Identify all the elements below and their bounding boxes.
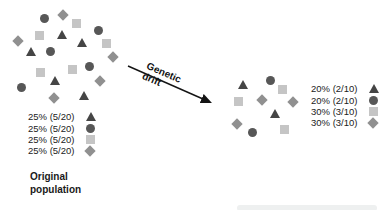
circle-marker: [369, 96, 378, 105]
square-marker: [369, 107, 378, 116]
drifted-population-legend: 20% (2/10)20% (2/10)30% (3/10)30% (3/10): [311, 83, 379, 129]
original-population-label-line1: Original: [30, 170, 81, 183]
legend-label: 30% (3/10): [311, 117, 369, 128]
legend-label: 25% (5/20): [28, 123, 86, 134]
triangle-marker: [369, 84, 379, 93]
legend-row: 30% (3/10): [311, 106, 379, 117]
cropped-ui-artifact: [237, 205, 377, 210]
legend-label: 20% (2/10): [311, 83, 369, 94]
diamond-marker: [367, 117, 378, 128]
legend-row: 25% (5/20): [28, 111, 96, 122]
legend-row: 30% (3/10): [311, 117, 379, 128]
original-population-label-line2: population: [30, 183, 81, 196]
legend-label: 25% (5/20): [28, 134, 86, 145]
original-population-label: Original population: [30, 170, 81, 196]
legend-label: 30% (3/10): [311, 106, 369, 117]
legend-row: 25% (5/20): [28, 134, 96, 145]
legend-row: 20% (2/10): [311, 83, 379, 94]
triangle-marker: [86, 112, 96, 121]
legend-label: 25% (5/20): [28, 145, 86, 156]
square-marker: [86, 135, 95, 144]
original-population-legend: 25% (5/20)25% (5/20)25% (5/20)25% (5/20): [28, 111, 96, 157]
circle-marker: [86, 124, 95, 133]
legend-row: 25% (5/20): [28, 145, 96, 156]
genetic-drift-diagram: Genetic drift 25% (5/20)25% (5/20)25% (5…: [0, 0, 388, 210]
diamond-marker: [84, 145, 95, 156]
legend-row: 20% (2/10): [311, 94, 379, 105]
legend-label: 25% (5/20): [28, 111, 86, 122]
legend-label: 20% (2/10): [311, 95, 369, 106]
legend-row: 25% (5/20): [28, 122, 96, 133]
